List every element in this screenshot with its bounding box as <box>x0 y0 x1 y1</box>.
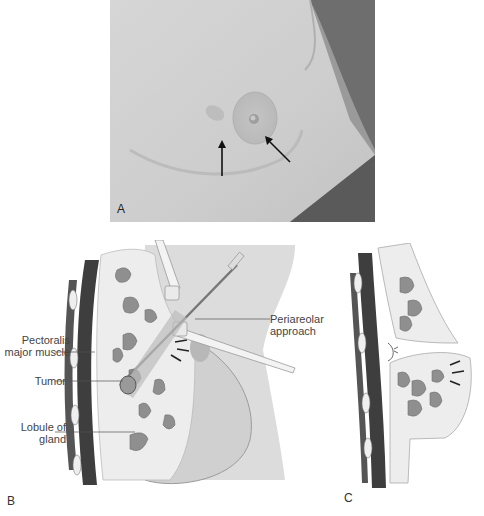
photo-breast-image <box>110 0 375 222</box>
panel-a-photo: A <box>110 0 375 222</box>
panel-label-b: B <box>7 494 15 508</box>
label-pectoralis-major-muscle: Pectoralis major muscle <box>4 334 70 358</box>
label-periareolar-approach: Periareolar approach <box>270 313 350 337</box>
label-tumor: Tumor <box>4 375 66 387</box>
illustration-periareolar-approach <box>55 240 340 495</box>
panel-label-a: A <box>117 202 125 216</box>
panel-c-illustration <box>350 243 484 493</box>
panel-b-illustration <box>55 240 340 495</box>
panel-label-c: C <box>344 491 353 505</box>
label-lobule-of-gland: Lobule of gland <box>4 421 66 445</box>
illustration-post-excision <box>350 243 484 493</box>
